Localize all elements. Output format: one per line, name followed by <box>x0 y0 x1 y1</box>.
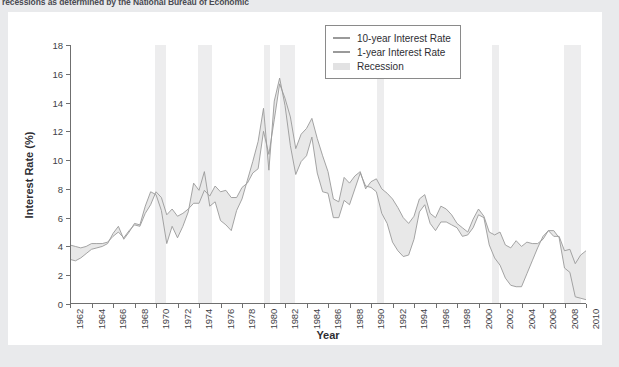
caption-clipped-line: recessions as determined by the National… <box>2 0 462 8</box>
y-axis-line <box>70 45 71 304</box>
x-tick-label: 1962 <box>74 309 85 329</box>
y-axis-title: Interest Rate (%) <box>22 45 36 304</box>
x-tick-label: 1968 <box>139 309 150 329</box>
x-tick-label: 2000 <box>483 309 494 329</box>
y-tick-label: 6 <box>58 212 63 223</box>
x-tick <box>242 304 243 308</box>
legend-label: 1-year Interest Rate <box>357 47 445 58</box>
y-tick <box>66 218 70 219</box>
x-tick <box>221 304 222 308</box>
legend-label: Recession <box>357 61 404 72</box>
x-tick-label: 1972 <box>182 309 193 329</box>
x-tick <box>156 304 157 308</box>
x-tick-label: 1986 <box>332 309 343 329</box>
x-tick <box>436 304 437 308</box>
y-tick-label: 2 <box>58 270 63 281</box>
x-tick <box>479 304 480 308</box>
x-tick <box>457 304 458 308</box>
x-tick-label: 2004 <box>526 309 537 329</box>
x-tick <box>543 304 544 308</box>
plot-area: 024681012141618 196219641966196819701972… <box>70 45 586 304</box>
x-tick <box>307 304 308 308</box>
x-tick <box>500 304 501 308</box>
legend-line-icon <box>333 51 350 53</box>
x-tick <box>393 304 394 308</box>
x-tick-label: 1982 <box>289 309 300 329</box>
y-tick-label: 0 <box>58 299 63 310</box>
legend-label: 10-year Interest Rate <box>357 33 451 44</box>
y-tick <box>66 45 70 46</box>
x-tick <box>565 304 566 308</box>
y-tick <box>66 275 70 276</box>
y-tick-label: 8 <box>58 183 63 194</box>
x-tick-label: 1974 <box>203 309 214 329</box>
x-tick-label: 1994 <box>418 309 429 329</box>
x-tick-label: 1984 <box>311 309 322 329</box>
y-tick <box>66 131 70 132</box>
y-tick-label: 12 <box>52 126 63 137</box>
x-tick-label: 1966 <box>117 309 128 329</box>
series-line-10-year <box>70 84 586 264</box>
x-tick <box>350 304 351 308</box>
legend-box-icon <box>333 63 350 70</box>
x-tick-label: 2010 <box>590 309 601 329</box>
x-tick-label: 1976 <box>225 309 236 329</box>
y-tick <box>66 74 70 75</box>
y-tick <box>66 189 70 190</box>
series-layer <box>70 45 586 304</box>
x-tick <box>199 304 200 308</box>
x-tick-label: 1970 <box>160 309 171 329</box>
x-tick-label: 1988 <box>354 309 365 329</box>
figure-card: Interest Rate (%) 024681012141618 196219… <box>8 12 602 345</box>
x-tick <box>522 304 523 308</box>
legend-item-10-year: 10-year Interest Rate <box>333 31 451 45</box>
x-tick <box>285 304 286 308</box>
x-tick-label: 1998 <box>461 309 472 329</box>
x-tick-label: 1996 <box>440 309 451 329</box>
y-tick-label: 16 <box>52 68 63 79</box>
x-tick <box>586 304 587 308</box>
x-tick <box>264 304 265 308</box>
x-tick <box>113 304 114 308</box>
y-tick-label: 18 <box>52 40 63 51</box>
y-tick-label: 14 <box>52 97 63 108</box>
x-tick <box>178 304 179 308</box>
x-tick <box>414 304 415 308</box>
x-axis-title: Year <box>70 329 586 341</box>
figure-root: recessions as determined by the National… <box>0 0 619 367</box>
x-tick-label: 1964 <box>96 309 107 329</box>
y-tick-label: 4 <box>58 241 63 252</box>
x-tick-label: 1978 <box>246 309 257 329</box>
x-tick <box>70 304 71 308</box>
legend-line-icon <box>333 37 350 39</box>
legend: 10-year Interest Rate 1-year Interest Ra… <box>325 25 461 79</box>
x-tick <box>92 304 93 308</box>
y-tick-label: 10 <box>52 155 63 166</box>
x-tick <box>371 304 372 308</box>
legend-item-recession: Recession <box>333 59 451 73</box>
x-tick-label: 2002 <box>504 309 515 329</box>
legend-item-1-year: 1-year Interest Rate <box>333 45 451 59</box>
x-tick <box>328 304 329 308</box>
x-tick-label: 1992 <box>397 309 408 329</box>
y-tick <box>66 246 70 247</box>
x-tick-label: 2006 <box>547 309 558 329</box>
fill-between-series <box>70 78 586 300</box>
y-tick <box>66 160 70 161</box>
x-tick-label: 1990 <box>375 309 386 329</box>
x-tick-label: 1980 <box>268 309 279 329</box>
x-tick-label: 2008 <box>569 309 580 329</box>
y-tick <box>66 103 70 104</box>
x-tick <box>135 304 136 308</box>
